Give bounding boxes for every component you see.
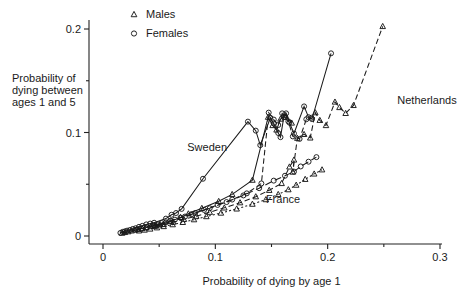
data-point-female [271, 178, 276, 183]
series-layer [118, 23, 386, 235]
y-tick-label: 0.1 [66, 127, 81, 139]
chart-canvas: 00.10.20.300.10.2 SwedenFranceNetherland… [0, 0, 461, 303]
y-tick-label: 0.2 [66, 23, 81, 35]
annotation-france: France [266, 193, 300, 205]
annotation-netherlands: Netherlands [397, 94, 457, 106]
annotation-sweden: Sweden [187, 141, 227, 153]
x-tick-label: 0 [100, 251, 106, 263]
x-tick-label: 0.3 [432, 251, 447, 263]
legend: MalesFemales [131, 8, 189, 39]
y-axis-title-line: ages 1 and 5 [12, 96, 76, 108]
axes-layer: 00.10.20.300.10.2 [66, 20, 448, 263]
data-point-female [298, 164, 303, 169]
axis-titles-layer: Probability ofdying betweenages 1 and 5P… [12, 72, 341, 287]
y-tick-label: 0 [75, 230, 81, 242]
y-axis-title-line: dying between [12, 84, 83, 96]
legend-label: Males [146, 8, 176, 20]
annotations-layer: SwedenFranceNetherlands [187, 94, 457, 205]
mortality-scatter-figure: 00.10.20.300.10.2 SwedenFranceNetherland… [0, 0, 461, 303]
data-point-male [302, 176, 308, 181]
data-point-male [319, 167, 325, 172]
x-tick-label: 0.1 [208, 251, 223, 263]
y-axis-title-line: Probability of [12, 72, 77, 84]
legend-item-females[interactable]: Females [131, 27, 188, 39]
legend-item-males[interactable]: Males [131, 8, 176, 20]
legend-circle-icon [131, 31, 136, 36]
data-point-female [259, 181, 264, 186]
data-point-female [306, 159, 311, 164]
legend-triangle-icon [131, 11, 137, 16]
data-point-male [279, 180, 285, 185]
x-tick-label: 0.2 [320, 251, 335, 263]
legend-label: Females [146, 27, 189, 39]
x-axis-title: Probability of dying by age 1 [202, 275, 340, 287]
